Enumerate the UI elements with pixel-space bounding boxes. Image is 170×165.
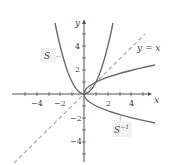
x-tick-label: 2 xyxy=(106,99,111,108)
y-tick-label: 4 xyxy=(75,42,80,51)
x-axis-arrow-icon xyxy=(148,92,152,96)
x-axis-label: x xyxy=(154,95,159,105)
y-axis: 4 2 −2 −4 y xyxy=(70,18,86,162)
y-tick-label: −4 xyxy=(70,137,82,146)
y-tick-label: 2 xyxy=(75,65,80,74)
label-identity: y = x xyxy=(136,43,160,53)
x-tick-label: −4 xyxy=(31,99,43,108)
x-tick-label: −2 xyxy=(54,99,66,108)
function-inverse-plot: −4 −2 2 4 x 4 2 −2 −4 y S y = xyxy=(0,0,170,165)
y-axis-arrow-icon xyxy=(82,19,86,24)
x-tick-label: 4 xyxy=(129,99,134,108)
y-tick-label: −2 xyxy=(70,114,82,123)
y-axis-label: y xyxy=(74,18,81,28)
label-s: S xyxy=(44,51,50,61)
